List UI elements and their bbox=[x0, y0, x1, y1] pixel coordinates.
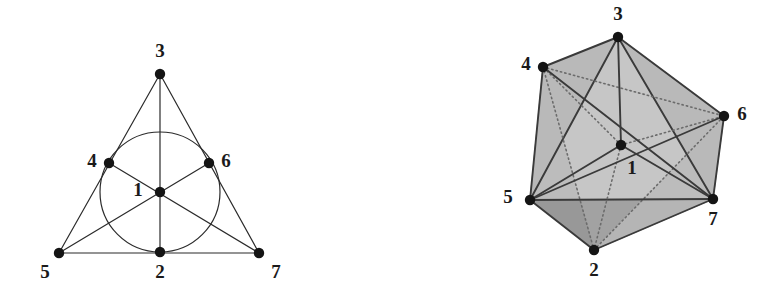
panel-polytope-3d: 1234567 bbox=[503, 3, 747, 280]
fano-node-label-1: 1 bbox=[133, 179, 143, 200]
fano-node-label-3: 3 bbox=[155, 40, 165, 61]
fano-node-label-4: 4 bbox=[87, 150, 97, 171]
edge-5-7 bbox=[530, 199, 713, 200]
polytope-node-label-4: 4 bbox=[521, 53, 531, 74]
polytope-node-label-1: 1 bbox=[627, 157, 637, 178]
fano-node-5 bbox=[54, 248, 64, 258]
fano-node-2 bbox=[155, 247, 165, 257]
polytope-node-label-6: 6 bbox=[737, 103, 747, 124]
fano-node-label-5: 5 bbox=[40, 261, 50, 282]
polytope-node-label-7: 7 bbox=[708, 208, 718, 229]
fano-node-label-6: 6 bbox=[221, 150, 231, 171]
fano-node-4 bbox=[104, 158, 114, 168]
polytope-node-5 bbox=[525, 195, 535, 205]
fano-node-7 bbox=[254, 248, 264, 258]
fano-node-label-7: 7 bbox=[271, 261, 281, 282]
polytope-node-3 bbox=[613, 32, 623, 42]
polytope-node-label-2: 2 bbox=[589, 259, 599, 280]
fano-nodes bbox=[54, 69, 264, 258]
panel-fano-plane: 1234567 bbox=[40, 40, 281, 282]
figure-panel: 1234567 1234567 bbox=[0, 0, 768, 298]
polytope-node-1 bbox=[616, 140, 626, 150]
fano-node-6 bbox=[204, 158, 214, 168]
polytope-node-label-5: 5 bbox=[503, 186, 513, 207]
fano-node-3 bbox=[155, 69, 165, 79]
line-5-1-6 bbox=[59, 163, 209, 253]
fano-node-label-2: 2 bbox=[155, 261, 165, 282]
polytope-node-7 bbox=[708, 194, 718, 204]
polytope-node-6 bbox=[719, 111, 729, 121]
polytope-node-4 bbox=[538, 62, 548, 72]
polytope-node-label-3: 3 bbox=[613, 3, 623, 24]
fano-node-1 bbox=[155, 187, 165, 197]
polytope-node-2 bbox=[589, 245, 599, 255]
figure-svg: 1234567 1234567 bbox=[0, 0, 768, 298]
line-4-1-7 bbox=[109, 163, 259, 253]
